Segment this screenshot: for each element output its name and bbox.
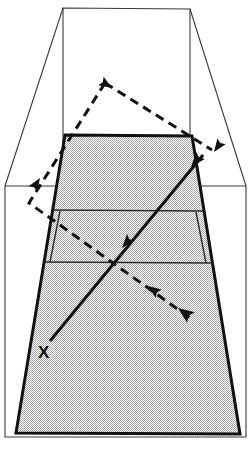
figure-root: X <box>0 0 252 456</box>
dashed-corner-arrowhead-icon <box>210 138 226 154</box>
court-diagram: X <box>0 0 252 456</box>
service-line-far <box>54 210 203 211</box>
dashed-descent-mid-arrowhead-icon <box>29 175 44 191</box>
court-trapezoid <box>16 135 240 434</box>
service-line-near <box>44 262 213 263</box>
player-position-mark: X <box>38 343 50 362</box>
outer-enclosure-left-diagonal <box>5 8 63 186</box>
